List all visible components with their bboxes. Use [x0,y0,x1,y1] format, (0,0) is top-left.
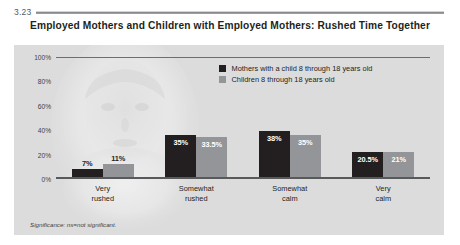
chart-panel: Mothers with a child 8 through 18 years … [14,45,444,235]
bar-value-label: 21% [392,155,407,164]
bar-value-label: 20.5% [358,155,378,164]
figure-container: 3.23 Employed Mothers and Children with … [0,0,460,245]
figure-header: 3.23 [0,6,460,18]
y-tick-100: 100% [34,54,51,61]
x-label-line: Somewhat [150,184,244,194]
x-label-line: calm [337,194,431,204]
bar-value-label: 35% [298,138,313,147]
x-label-line: rushed [56,194,150,204]
bar-children-somewhat-rushed: 33.5% [196,137,227,177]
bar-mothers-very-calm: 20.5% [352,152,383,177]
bar-children-very-rushed: 11% [103,164,134,177]
header-rule [36,11,444,14]
bar-value-label: 7% [82,159,92,168]
x-label-line: rushed [150,194,244,204]
bar-value-label: 38% [267,134,282,143]
bar-children-somewhat-calm: 35% [290,135,321,177]
y-tick-40: 40% [38,127,51,134]
y-tick-60: 60% [38,102,51,109]
bar-mothers-somewhat-calm: 38% [259,131,290,177]
x-label-line: Very [56,184,150,194]
y-tick-0: 0% [41,176,51,183]
x-label-line: Very [337,184,431,194]
bar-mothers-somewhat-rushed: 35% [165,135,196,177]
bar-group-somewhat-rushed: 35% 33.5% [150,57,244,177]
bar-mothers-very-rushed: 7% [72,169,103,177]
axis-line-baseline [56,177,430,179]
x-label-very-rushed: Very rushed [56,184,150,203]
bar-group-very-calm: 20.5% 21% [337,57,431,177]
bar-group-very-rushed: 7% 11% [56,57,150,177]
plot-area: 100% 80% 60% 40% 20% 0% 7% 11% 35% [56,57,430,179]
bar-value-label: 33.5% [202,140,222,149]
bar-value-label: 35% [174,138,189,147]
y-tick-80: 80% [38,78,51,85]
bar-children-very-calm: 21% [383,152,414,177]
x-label-very-calm: Very calm [337,184,431,203]
x-label-line: calm [243,194,337,204]
bar-groups: 7% 11% 35% 33.5% 38% [56,57,430,177]
chart-title: Employed Mothers and Children with Emplo… [0,20,460,31]
x-label-somewhat-rushed: Somewhat rushed [150,184,244,203]
x-label-line: Somewhat [243,184,337,194]
x-label-somewhat-calm: Somewhat calm [243,184,337,203]
bar-group-somewhat-calm: 38% 35% [243,57,337,177]
bar-value-label: 11% [111,154,125,163]
x-axis-labels: Very rushed Somewhat rushed Somewhat cal… [56,184,430,203]
figure-number: 3.23 [0,7,31,17]
significance-footnote: Significance: ns=not significant. [30,221,117,228]
y-tick-20: 20% [38,151,51,158]
